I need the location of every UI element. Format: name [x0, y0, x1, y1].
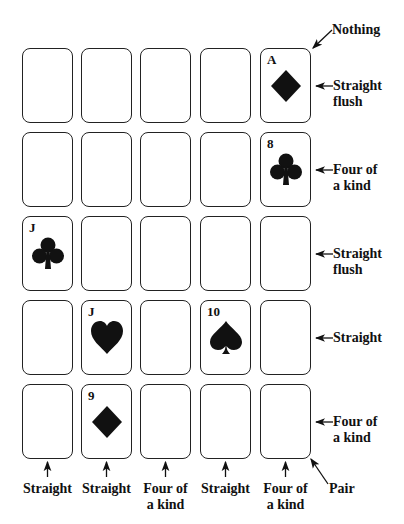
row-label: Straight [333, 330, 382, 346]
column-label: Four ofa kind [136, 481, 196, 513]
diagonal-label-pair: Pair [329, 481, 355, 497]
column-label: Four ofa kind [256, 481, 316, 513]
column-label: Straight [18, 481, 78, 497]
diagonal-label-nothing: Nothing [332, 22, 380, 38]
row-label: Four ofa kind [333, 162, 377, 194]
row-label: Straightflush [333, 246, 382, 278]
row-label: Straightflush [333, 78, 382, 110]
column-label: Straight [77, 481, 137, 497]
column-label: Straight [196, 481, 256, 497]
row-label: Four ofa kind [333, 414, 377, 446]
